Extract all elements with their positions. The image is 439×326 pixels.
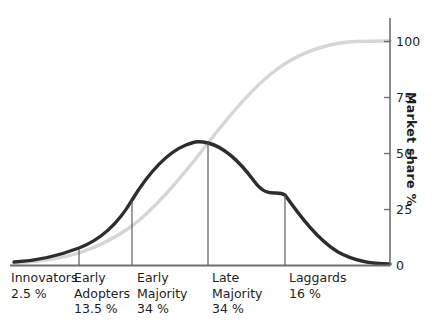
bell-curve-adopter-distribution <box>14 142 390 264</box>
segment-label-early-adopters-name-line1: Early <box>74 270 130 286</box>
s-curve-cumulative-market-share <box>14 41 390 263</box>
segment-label-innovators: Innovators 2.5 % <box>11 270 77 301</box>
segment-label-late-majority-name-line1: Late <box>212 270 262 286</box>
segment-label-innovators-name: Innovators <box>11 270 77 286</box>
segment-label-laggards: Laggards 16 % <box>289 270 347 301</box>
segment-label-innovators-percent: 2.5 % <box>11 286 77 302</box>
segment-label-laggards-name: Laggards <box>289 270 347 286</box>
segment-label-early-majority-percent: 34 % <box>137 301 187 317</box>
segment-label-early-adopters: Early Adopters 13.5 % <box>74 270 130 317</box>
segment-label-late-majority-name-line2: Majority <box>212 286 262 302</box>
segment-label-laggards-percent: 16 % <box>289 286 347 302</box>
segment-label-late-majority: Late Majority 34 % <box>212 270 262 317</box>
y-tick-label-100: 100 <box>396 34 420 49</box>
segment-label-early-adopters-name-line2: Adopters <box>74 286 130 302</box>
segment-label-early-majority: Early Majority 34 % <box>137 270 187 317</box>
segment-label-early-majority-name-line1: Early <box>137 270 187 286</box>
segment-label-early-majority-name-line2: Majority <box>137 286 187 302</box>
segment-label-early-adopters-percent: 13.5 % <box>74 301 130 317</box>
segment-label-late-majority-percent: 34 % <box>212 301 262 317</box>
y-axis-title: Market share % <box>404 92 419 222</box>
y-tick-label-0: 0 <box>396 258 404 273</box>
diffusion-of-innovation-chart: 100 75 50 25 0 Market share % Innovators… <box>0 0 439 326</box>
